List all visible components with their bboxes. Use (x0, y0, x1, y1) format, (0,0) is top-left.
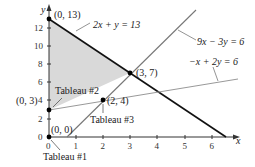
x-tick-label: 1 (74, 141, 79, 151)
point-label: (2, 4) (107, 95, 129, 107)
y-axis-arrow-icon (47, 4, 52, 11)
tableau-label: Tableau #2 (55, 85, 99, 96)
equation-label: 9x − 3y = 6 (197, 36, 244, 47)
leader-line (76, 23, 90, 31)
y-tick-label: 0 (38, 132, 43, 142)
point-label: (0, 0) (51, 124, 73, 136)
x-tick-label: 6 (210, 141, 215, 151)
equation-label: −x + 2y = 6 (189, 56, 238, 67)
lp-graph: 0 1 2 3 4 5 6 x 0 2 4 6 8 10 12 y (0, 13… (0, 0, 255, 167)
y-tick-label: 6 (38, 77, 43, 87)
equation-label: 2x + y = 13 (93, 19, 140, 30)
vertex-2-4 (101, 98, 106, 103)
leader-line (51, 140, 60, 150)
leader-line (213, 67, 218, 81)
x-tick-label: 5 (183, 141, 188, 151)
x-tick-label: 3 (128, 141, 133, 151)
point-label: (0, 13) (54, 9, 81, 21)
vertex-0-3 (47, 108, 52, 113)
x-tick-label: 2 (101, 141, 106, 151)
point-label: (3, 7) (136, 67, 158, 79)
x-tick-label: 4 (155, 141, 160, 151)
y-tick-label: 4 (38, 95, 43, 105)
vertex-0-0 (47, 135, 52, 140)
y-tick-label: 8 (38, 59, 43, 69)
y-tick-label: 2 (38, 114, 43, 124)
leader-line (178, 30, 196, 40)
x-axis-label: x (235, 135, 241, 146)
y-tick-label: 12 (34, 23, 43, 33)
y-tick-label: 10 (34, 41, 44, 51)
x-tick-label: 0 (46, 141, 51, 151)
tableau-label: Tableau #1 (43, 151, 87, 162)
y-axis-label: y (40, 4, 46, 15)
point-label: (0, 3) (16, 95, 38, 107)
vertex-3-7 (128, 71, 133, 76)
vertex-0-13 (47, 17, 52, 22)
tableau-label: Tableau #3 (90, 114, 134, 125)
